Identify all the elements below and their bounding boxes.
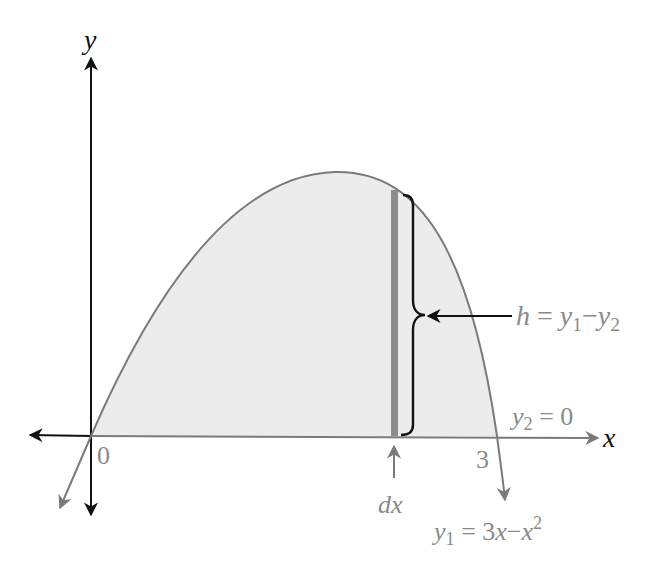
baseline-sub: 2 [524,414,533,434]
curve-exp: 2 [533,513,542,533]
curve-var: y [434,517,446,546]
area-diagram [0,0,665,573]
curve-sub: 1 [446,529,455,549]
curve-minus: − [507,517,522,546]
baseline-label: y2 = 0 [512,404,573,434]
curve-eq: = 3 [455,517,496,546]
height-sub2: 2 [610,314,620,335]
baseline-eq: = 0 [533,402,574,431]
curve-x: x [495,517,507,546]
height-y2: y [598,300,610,331]
height-y1: y [560,300,572,331]
area-strip [391,190,398,436]
x-axis-left [30,435,91,436]
height-var: h [516,300,530,331]
x-axis-label: x [603,424,615,452]
baseline-var: y [512,402,524,431]
x-axis-right [91,436,598,438]
origin-tick-label: 0 [97,443,110,469]
dx-label: dx [378,492,403,518]
height-minus: − [582,300,598,331]
curve-x2: x [522,517,534,546]
curve-label: y1 = 3x−x2 [434,514,542,549]
y-axis-label: y [84,26,96,54]
height-label: h = y1−y2 [516,302,620,334]
shaded-region [91,172,497,436]
height-eq: = [530,300,560,331]
x3-tick-label: 3 [476,447,489,473]
height-sub1: 1 [572,314,582,335]
